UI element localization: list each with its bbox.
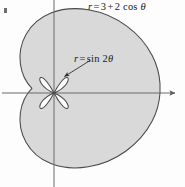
cardioid-label-cos: cos: [123, 1, 138, 12]
cardioid-label-theta: θ: [140, 1, 145, 12]
polar-plot-canvas: [0, 0, 185, 187]
polar-curve-figure: r=3+2 cos θ r=sin 2θ: [0, 0, 185, 187]
rose-label-sin: sin: [87, 53, 100, 64]
cardioid-label-equals: =: [92, 1, 101, 12]
cardioid-region-fill: [20, 9, 160, 168]
cardioid-label-plus: +: [106, 1, 115, 12]
rose-equation-label: r=sin 2θ: [74, 53, 113, 64]
cardioid-label-coefficient: 2: [115, 1, 120, 12]
cardioid-equation-label: r=3+2 cos θ: [88, 1, 146, 12]
rose-label-theta: θ: [108, 53, 113, 64]
rose-label-equals: =: [78, 53, 87, 64]
